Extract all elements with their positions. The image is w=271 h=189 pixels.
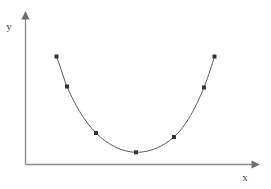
data-point-marker — [65, 85, 69, 89]
data-point-marker — [172, 135, 176, 139]
y-axis-arrowhead — [21, 11, 29, 20]
x-axis-arrowhead — [252, 160, 261, 168]
data-point-marker — [134, 150, 138, 154]
data-point-marker — [202, 86, 206, 90]
x-axis-label: x — [242, 171, 248, 183]
chart-canvas: y x — [0, 0, 271, 189]
data-point-marker — [213, 55, 217, 59]
chart-figure: y x — [0, 0, 271, 189]
fitted-curve — [57, 57, 215, 153]
y-axis-label: y — [6, 20, 12, 32]
data-point-marker — [55, 55, 59, 59]
data-point-marker — [94, 131, 98, 135]
data-point-markers — [55, 55, 217, 155]
